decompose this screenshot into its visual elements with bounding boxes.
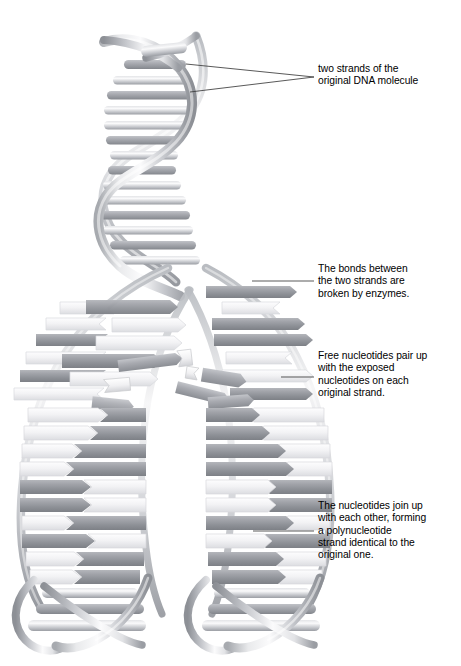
label-bonds-broken: The bonds between the two strands are br… [318,263,456,300]
leader-line-strand-b [190,77,314,92]
right-arm-base-pairs [206,408,332,584]
replication-fork [14,268,332,614]
left-arm-base-pairs [20,408,146,584]
label-free-nucleotides: Free nucleotides pair up with the expose… [318,350,458,399]
right-daughter-helix [188,578,320,651]
label-original-strands: two strands of the original DNA molecule [318,63,456,88]
label-nucleotides-join: The nucleotides join up with each other,… [318,500,460,561]
original-double-helix [98,36,203,296]
dna-replication-figure [0,0,461,666]
new-daughter-helices [16,578,320,651]
